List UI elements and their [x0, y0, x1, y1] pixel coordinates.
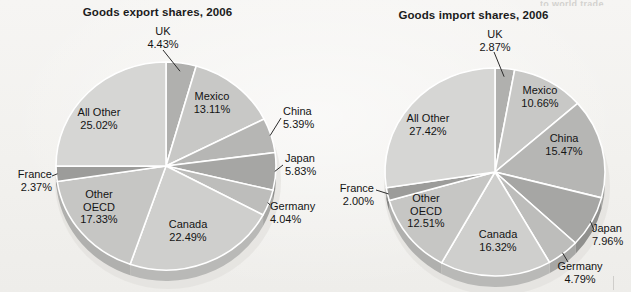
- slice-label-china: China 15.47%: [528, 132, 600, 157]
- slice-label-other-oecd: Other OECD 17.33%: [64, 188, 134, 226]
- slice-label-france: France 2.37%: [0, 168, 52, 193]
- slice-label-mexico: Mexico 10.66%: [502, 84, 578, 109]
- slice-label-canada: Canada 16.32%: [462, 228, 534, 253]
- slice-label-uk: UK 4.43%: [128, 25, 198, 50]
- slice-label-mexico: Mexico 13.11%: [176, 90, 248, 115]
- slice-label-other-oecd: Other OECD 12.51%: [391, 192, 461, 230]
- slice-label-uk: UK 2.87%: [460, 28, 530, 53]
- slice-label-canada: Canada 22.49%: [152, 218, 224, 243]
- chart-goods-import-shares: Goods import shares, 2006 UK 2.87% Mexic…: [316, 0, 631, 292]
- chart-goods-export-shares: Goods export shares, 2006 UK 4.43% Mexic…: [0, 0, 315, 292]
- slice-label-japan: Japan 7.96%: [592, 222, 631, 247]
- slice-label-germany: Germany 4.79%: [544, 260, 616, 285]
- leader-line-china: [270, 118, 281, 136]
- slice-label-all-other: All Other 25.02%: [59, 106, 139, 131]
- slice-label-france: France 2.00%: [318, 182, 374, 207]
- slice-label-all-other: All Other 27.42%: [388, 112, 468, 137]
- figure-page: to world trade Goods export shares, 2006…: [0, 0, 631, 292]
